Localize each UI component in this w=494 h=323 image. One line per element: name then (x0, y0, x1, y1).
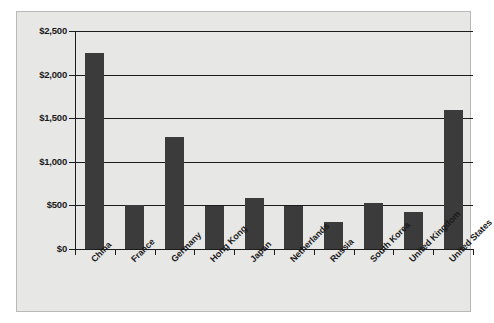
x-axis-tick-mark (274, 250, 275, 255)
y-axis-tick-mark (69, 75, 75, 76)
y-axis-tick-label: $0 (57, 243, 67, 254)
plot-area (75, 31, 473, 249)
y-axis-tick-label: $1,500 (39, 112, 67, 123)
y-axis-tick-mark (69, 162, 75, 163)
bar (125, 205, 144, 249)
x-axis-tick-mark (473, 250, 474, 255)
y-axis-tick-label: $1,000 (39, 156, 67, 167)
chart-panel: $0$500$1,000$1,500$2,000$2,500 ChinaFran… (16, 11, 471, 312)
x-axis-tick-mark (155, 250, 156, 255)
x-axis-tick-mark (234, 250, 235, 255)
y-axis-tick-label: $2,500 (39, 25, 67, 36)
x-axis-tick-mark (314, 250, 315, 255)
bar (165, 137, 184, 249)
bar (85, 53, 104, 249)
x-axis-tick-mark (194, 250, 195, 255)
x-axis-tick-mark (433, 250, 434, 255)
x-axis-tick-mark (75, 250, 76, 255)
y-axis-tick-mark (69, 118, 75, 119)
bar (364, 203, 383, 249)
x-axis-tick-mark (115, 250, 116, 255)
x-axis-tick-mark (354, 250, 355, 255)
x-axis-tick-mark (393, 250, 394, 255)
y-axis-tick-mark (69, 31, 75, 32)
y-axis-tick-mark (69, 249, 75, 250)
bar (245, 198, 264, 249)
y-axis-tick-label: $2,000 (39, 69, 67, 80)
y-axis-tick-mark (69, 205, 75, 206)
bars-layer (75, 31, 473, 249)
y-axis-tick-labels: $0$500$1,000$1,500$2,000$2,500 (17, 12, 67, 311)
y-axis-tick-label: $500 (47, 199, 67, 210)
